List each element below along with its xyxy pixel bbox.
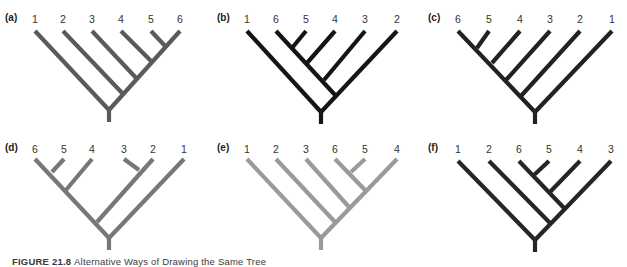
tree-panel-c: (c)654321 xyxy=(417,0,626,125)
branch xyxy=(97,159,153,222)
branch xyxy=(52,159,64,172)
tree-branches xyxy=(210,130,419,260)
branch xyxy=(521,31,580,96)
branch xyxy=(535,31,612,112)
tree-branches xyxy=(0,130,209,260)
branch xyxy=(292,31,306,48)
branch xyxy=(66,159,92,190)
figure-caption: FIGURE 21.8 Alternative Ways of Drawing … xyxy=(12,256,266,267)
branch xyxy=(63,31,124,95)
branch xyxy=(458,31,535,112)
tree-branches xyxy=(0,0,209,130)
tree-panel-e: (e)123654 xyxy=(210,130,419,255)
branch xyxy=(534,161,549,175)
caption-text: Alternative Ways of Drawing the Same Tre… xyxy=(74,256,266,267)
branch xyxy=(458,161,535,240)
branch xyxy=(550,161,580,192)
branch xyxy=(247,159,321,238)
branch xyxy=(121,31,153,63)
branch xyxy=(321,159,397,238)
branch xyxy=(492,31,520,63)
branch xyxy=(351,159,365,172)
tree-panel-d: (d)654321 xyxy=(0,130,209,255)
branch xyxy=(535,161,611,240)
tree-panel-f: (f)126543 xyxy=(417,130,626,255)
branch xyxy=(276,159,335,222)
caption-label: FIGURE 21.8 xyxy=(12,256,71,267)
branch xyxy=(124,159,139,170)
tree-branches xyxy=(417,130,626,260)
branch xyxy=(477,31,489,48)
branch xyxy=(35,159,109,238)
branch xyxy=(247,31,321,112)
tree-branches xyxy=(417,0,626,130)
branch xyxy=(109,31,180,110)
branch xyxy=(307,31,335,63)
tree-panel-a: (a)123456 xyxy=(0,0,209,125)
tree-branches xyxy=(210,0,419,130)
tree-panel-b: (b)165432 xyxy=(210,0,419,125)
